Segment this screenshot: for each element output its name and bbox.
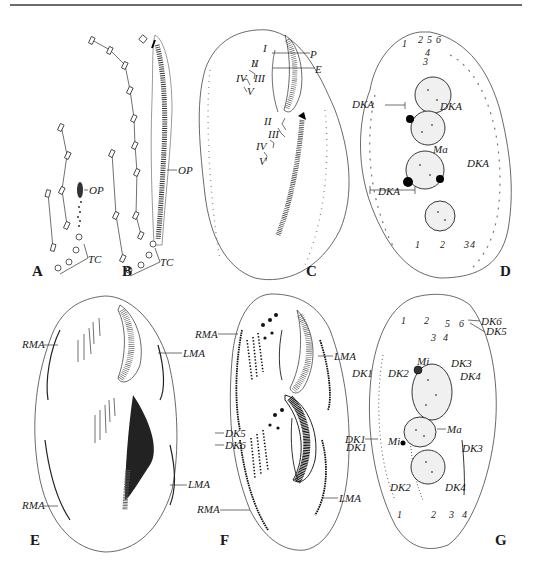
- label-dk2-g-1: DK2: [387, 367, 409, 379]
- panel-letter-f: F: [220, 532, 229, 548]
- panel-a: OP TC A: [32, 35, 147, 279]
- label-p: P: [309, 48, 317, 60]
- panel-letter-e: E: [30, 532, 40, 548]
- g-top-num-2: 2: [424, 315, 429, 326]
- label-c-ii-bottom: II: [263, 115, 273, 127]
- panel-letter-b: B: [122, 263, 132, 279]
- d-bottom-num-2: 2: [440, 239, 445, 250]
- label-ma-d: Ma: [432, 143, 448, 155]
- d-top-num-5: 5: [427, 34, 432, 45]
- g-bottom-num-3: 3: [448, 509, 454, 520]
- label-rma-e-2: RMA: [21, 499, 45, 511]
- label-c-v-top: V: [247, 85, 255, 97]
- panel-f: RMA RMA LMA LMA DK5 DK6 DK1 F: [194, 294, 367, 550]
- label-dk1-g-2: DK1: [344, 433, 366, 445]
- g-top-num-6: 6: [459, 318, 464, 329]
- label-c-i: I: [262, 42, 268, 54]
- label-c-iii-bottom: III: [267, 128, 280, 140]
- g-bottom-num-2: 2: [431, 509, 436, 520]
- label-lma-f-2: LMA: [338, 492, 361, 504]
- label-mi-g-2: Mi: [387, 435, 400, 447]
- label-dk6-f: DK6: [224, 439, 246, 451]
- label-rma-f-1: RMA: [194, 328, 218, 340]
- d-bottom-num-1: 1: [415, 239, 420, 250]
- label-op-a: OP: [89, 184, 104, 196]
- figure: OP TC A OP TC B: [0, 0, 534, 577]
- label-c-v-bottom: V: [259, 155, 267, 167]
- panel-c: P E I II III IV V II III IV V C: [199, 30, 349, 280]
- panel-b: OP TC B: [122, 35, 193, 279]
- panel-letter-d: D: [500, 263, 511, 279]
- panel-letter-a: A: [32, 263, 43, 279]
- label-lma-e-1: LMA: [182, 347, 205, 359]
- label-dka-3: DKA: [466, 157, 489, 169]
- d-top-num-2: 2: [418, 34, 423, 45]
- panel-letter-c: C: [306, 263, 317, 279]
- g-top-num-1: 1: [401, 315, 406, 326]
- figure-canvas: OP TC A OP TC B: [0, 0, 534, 577]
- label-c-iv-top: IV: [235, 72, 248, 84]
- panel-letter-g: G: [495, 532, 507, 548]
- label-op-b: OP: [178, 164, 193, 176]
- label-dk1-g-1: DK1: [351, 367, 373, 379]
- label-dk4-g-1: DK4: [459, 370, 481, 382]
- label-c-iv-bottom: IV: [255, 140, 268, 152]
- g-bottom-num-1: 1: [397, 509, 402, 520]
- label-tc-b: TC: [160, 256, 174, 268]
- label-rma-f-2: RMA: [196, 503, 220, 515]
- label-lma-f-1: LMA: [333, 350, 356, 362]
- label-dka-1: DKA: [351, 98, 374, 110]
- label-dka-4: DKA: [377, 185, 400, 197]
- label-dka-2: DKA: [439, 100, 462, 112]
- label-ma-g: Ma: [446, 423, 462, 435]
- label-dk3-g-2: DK3: [461, 442, 483, 454]
- panel-g: DK6 DK5 DK1 DK2 Mi DK3 DK4 DK1 Mi Ma DK3…: [344, 294, 507, 548]
- label-e: E: [314, 63, 322, 75]
- label-mi-g-1: Mi: [416, 355, 429, 367]
- d-bottom-num-4: 4: [470, 239, 475, 250]
- label-lma-e-2: LMA: [187, 478, 210, 490]
- d-top-num-4: 4: [425, 47, 430, 58]
- d-top-num-6: 6: [436, 34, 441, 45]
- label-tc-a: TC: [88, 253, 102, 265]
- panel-e: RMA RMA LMA LMA E: [21, 296, 210, 552]
- d-bottom-num-3: 3: [463, 239, 469, 250]
- d-top-num-1: 1: [402, 38, 407, 49]
- label-rma-e-1: RMA: [21, 338, 45, 350]
- label-dk2-g-2: DK2: [389, 481, 411, 493]
- label-c-ii-top: II: [250, 57, 260, 69]
- label-dk5-f: DK5: [224, 427, 246, 439]
- label-c-iii-top: III: [253, 72, 266, 84]
- top-rule: [10, 4, 522, 6]
- g-bottom-num-4: 4: [462, 509, 467, 520]
- g-top-num-4: 4: [443, 332, 448, 343]
- panel-d: DKA DKA DKA DKA Ma 1 2 3 4 5 6 1 2 3 4 D: [351, 32, 511, 279]
- label-dk5-g: DK5: [485, 325, 507, 337]
- g-top-num-3: 3: [430, 332, 436, 343]
- g-top-num-5: 5: [445, 318, 450, 329]
- label-dk3-g-1: DK3: [450, 357, 472, 369]
- label-dk4-g-2: DK4: [444, 481, 466, 493]
